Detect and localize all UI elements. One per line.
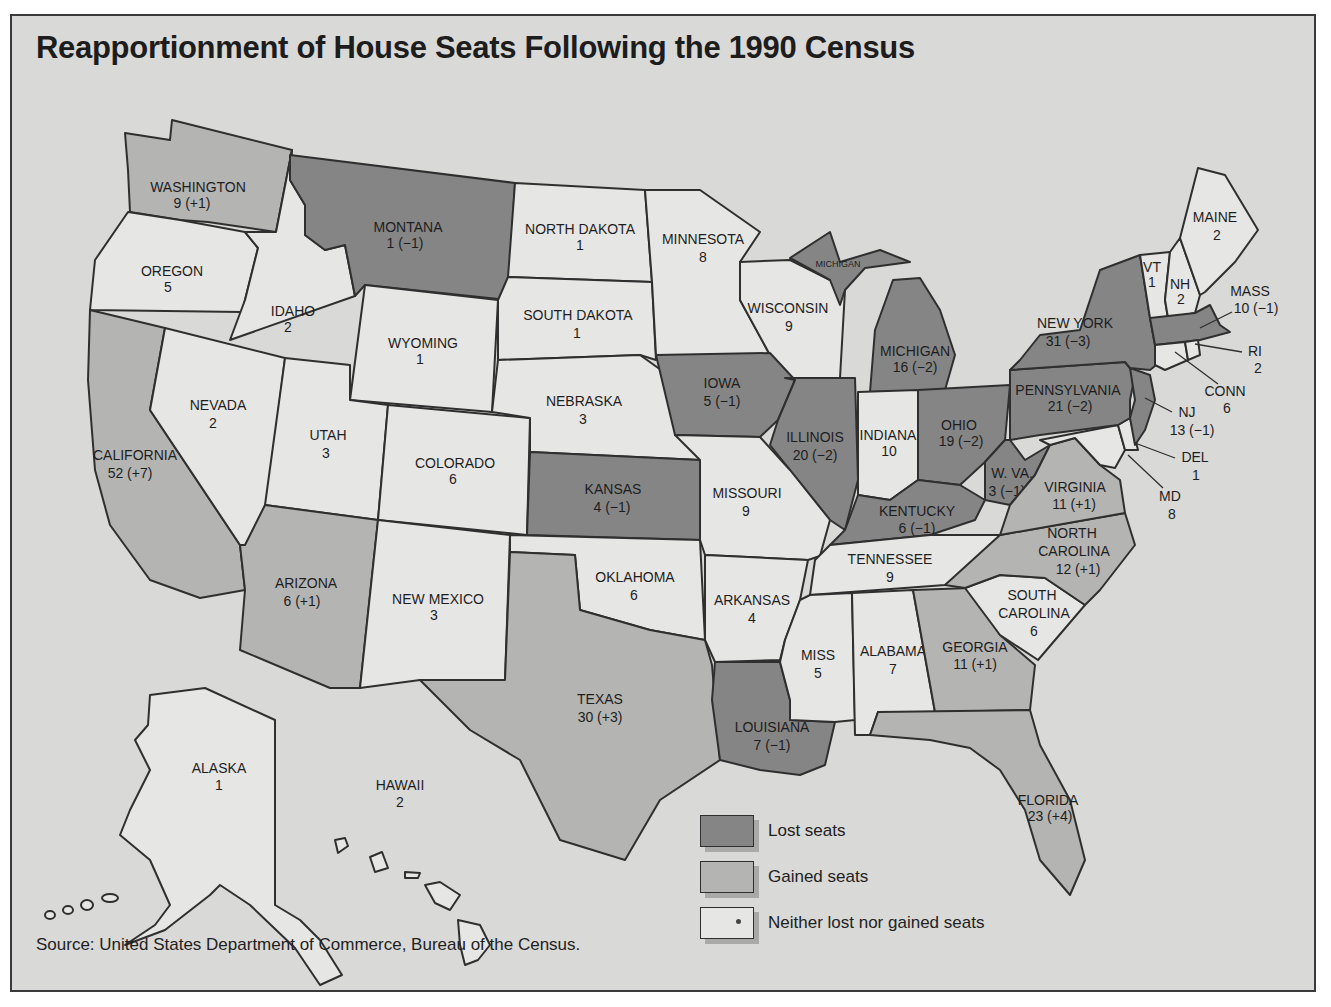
svg-text:IOWA: IOWA bbox=[704, 375, 741, 391]
svg-text:KENTUCKY: KENTUCKY bbox=[879, 503, 956, 519]
svg-text:W. VA.: W. VA. bbox=[991, 465, 1033, 481]
svg-text:9: 9 bbox=[785, 318, 793, 334]
legend-item-lost: Lost seats bbox=[700, 808, 984, 854]
svg-text:3: 3 bbox=[579, 411, 587, 427]
state-oregon[interactable]: OREGON 5 bbox=[90, 212, 258, 312]
svg-text:6: 6 bbox=[449, 471, 457, 487]
svg-text:OREGON: OREGON bbox=[141, 263, 203, 279]
svg-text:9: 9 bbox=[886, 569, 894, 585]
svg-text:ALABAMA: ALABAMA bbox=[860, 643, 927, 659]
svg-text:HAWAII: HAWAII bbox=[376, 777, 425, 793]
svg-text:IDAHO: IDAHO bbox=[271, 303, 315, 319]
svg-text:1: 1 bbox=[1192, 467, 1200, 483]
label-maryland: MD 8 bbox=[1128, 455, 1181, 522]
svg-text:MONTANA: MONTANA bbox=[374, 219, 444, 235]
svg-text:16 (−2): 16 (−2) bbox=[893, 359, 938, 375]
state-new-mexico[interactable]: NEW MEXICO 3 bbox=[360, 520, 510, 688]
svg-text:NORTH: NORTH bbox=[1047, 525, 1097, 541]
svg-text:6: 6 bbox=[1223, 400, 1231, 416]
svg-text:7 (−1): 7 (−1) bbox=[754, 737, 791, 753]
svg-text:52 (+7): 52 (+7) bbox=[108, 465, 153, 481]
svg-text:NH: NH bbox=[1170, 276, 1190, 292]
svg-text:SOUTH DAKOTA: SOUTH DAKOTA bbox=[523, 307, 633, 323]
svg-text:10 (−1): 10 (−1) bbox=[1234, 300, 1279, 316]
svg-text:2: 2 bbox=[396, 794, 404, 810]
svg-text:6 (−1): 6 (−1) bbox=[899, 520, 936, 536]
svg-text:21 (−2): 21 (−2) bbox=[1048, 398, 1093, 414]
state-connecticut[interactable] bbox=[1155, 342, 1188, 370]
svg-text:CALIFORNIA: CALIFORNIA bbox=[93, 447, 178, 463]
svg-text:3: 3 bbox=[322, 445, 330, 461]
svg-text:2: 2 bbox=[1213, 227, 1221, 243]
state-rhode-island[interactable] bbox=[1185, 340, 1200, 360]
state-south-dakota[interactable]: SOUTH DAKOTA 1 bbox=[498, 277, 656, 360]
svg-text:WASHINGTON: WASHINGTON bbox=[150, 179, 246, 195]
label-delaware: DEL 1 bbox=[1135, 443, 1209, 483]
svg-text:SOUTH: SOUTH bbox=[1008, 587, 1057, 603]
svg-text:VT: VT bbox=[1143, 259, 1161, 275]
us-map: WASHINGTON 9 (+1) OREGON 5 CALIFORNIA 52… bbox=[0, 0, 1331, 1007]
svg-text:13 (−1): 13 (−1) bbox=[1170, 422, 1215, 438]
svg-text:MAINE: MAINE bbox=[1193, 209, 1237, 225]
svg-text:1: 1 bbox=[416, 351, 424, 367]
svg-text:RI: RI bbox=[1248, 343, 1262, 359]
legend-swatch-lost bbox=[700, 815, 754, 847]
svg-text:5: 5 bbox=[164, 279, 172, 295]
svg-text:1: 1 bbox=[1148, 274, 1156, 290]
svg-text:10: 10 bbox=[881, 443, 897, 459]
svg-text:MD: MD bbox=[1159, 488, 1181, 504]
svg-text:2: 2 bbox=[284, 319, 292, 335]
state-colorado[interactable]: COLORADO 6 bbox=[378, 405, 530, 535]
svg-text:7: 7 bbox=[889, 661, 897, 677]
state-indiana[interactable]: INDIANA 10 bbox=[858, 390, 918, 500]
svg-text:1: 1 bbox=[215, 777, 223, 793]
svg-text:NEW YORK: NEW YORK bbox=[1037, 315, 1114, 331]
svg-text:UTAH: UTAH bbox=[309, 427, 346, 443]
svg-text:6: 6 bbox=[630, 587, 638, 603]
state-michigan[interactable]: MICHIGAN 16 (−2) bbox=[870, 278, 955, 392]
state-north-dakota[interactable]: NORTH DAKOTA 1 bbox=[508, 183, 652, 282]
legend-swatch-gained bbox=[700, 861, 754, 893]
svg-text:2: 2 bbox=[1177, 291, 1185, 307]
svg-text:4 (−1): 4 (−1) bbox=[594, 499, 631, 515]
state-iowa[interactable]: IOWA 5 (−1) bbox=[656, 353, 795, 437]
svg-text:1: 1 bbox=[573, 325, 581, 341]
svg-text:31 (−3): 31 (−3) bbox=[1046, 333, 1091, 349]
state-arizona[interactable]: ARIZONA 6 (+1) bbox=[240, 505, 378, 688]
label-new-jersey: NJ 13 (−1) bbox=[1145, 398, 1214, 438]
svg-text:NEVADA: NEVADA bbox=[190, 397, 247, 413]
svg-text:WISCONSIN: WISCONSIN bbox=[748, 300, 829, 316]
svg-text:20 (−2): 20 (−2) bbox=[793, 447, 838, 463]
svg-text:DEL: DEL bbox=[1181, 449, 1208, 465]
svg-text:ILLINOIS: ILLINOIS bbox=[786, 429, 844, 445]
legend-item-gained: Gained seats bbox=[700, 854, 984, 900]
svg-text:CAROLINA: CAROLINA bbox=[998, 605, 1070, 621]
svg-text:5: 5 bbox=[814, 665, 822, 681]
svg-text:8: 8 bbox=[1168, 506, 1176, 522]
svg-text:3: 3 bbox=[430, 607, 438, 623]
svg-text:COLORADO: COLORADO bbox=[415, 455, 495, 471]
legend-label-lost: Lost seats bbox=[768, 821, 846, 841]
state-kansas[interactable]: KANSAS 4 (−1) bbox=[527, 452, 700, 540]
state-new-jersey[interactable] bbox=[1130, 368, 1155, 445]
svg-text:OKLAHOMA: OKLAHOMA bbox=[595, 569, 675, 585]
svg-text:23 (+4): 23 (+4) bbox=[1028, 808, 1073, 824]
state-wyoming[interactable]: WYOMING 1 bbox=[350, 285, 498, 412]
svg-text:NORTH DAKOTA: NORTH DAKOTA bbox=[525, 221, 636, 237]
legend-label-neither: Neither lost nor gained seats bbox=[768, 913, 984, 933]
svg-text:LOUISIANA: LOUISIANA bbox=[735, 719, 810, 735]
svg-text:NEBRASKA: NEBRASKA bbox=[546, 393, 623, 409]
label-rhode-island: RI 2 bbox=[1195, 343, 1262, 376]
svg-text:KANSAS: KANSAS bbox=[585, 481, 642, 497]
svg-text:PENNSYLVANIA: PENNSYLVANIA bbox=[1015, 382, 1121, 398]
dot-icon bbox=[736, 919, 741, 924]
svg-text:ARIZONA: ARIZONA bbox=[275, 575, 338, 591]
svg-text:9 (+1): 9 (+1) bbox=[174, 195, 211, 211]
svg-text:MINNESOTA: MINNESOTA bbox=[662, 231, 745, 247]
svg-text:TENNESSEE: TENNESSEE bbox=[848, 551, 933, 567]
svg-text:CONN: CONN bbox=[1204, 383, 1245, 399]
svg-text:11 (+1): 11 (+1) bbox=[953, 656, 997, 672]
legend-item-neither: Neither lost nor gained seats bbox=[700, 900, 984, 946]
svg-text:WYOMING: WYOMING bbox=[388, 335, 458, 351]
svg-text:ALASKA: ALASKA bbox=[192, 760, 247, 776]
